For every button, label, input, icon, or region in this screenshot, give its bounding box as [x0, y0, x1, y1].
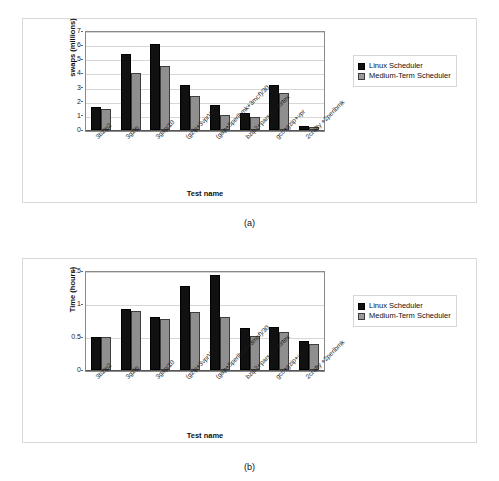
chart-frame-b: Time (hours) 00.511.5 3bzip23gzip3gap/10…: [22, 258, 477, 443]
bar-group: [121, 272, 141, 370]
y-tick-label: 4: [77, 69, 81, 77]
legend-label-linux: Linux Scheduler: [369, 62, 423, 70]
legend-item-linux-a: Linux Scheduler: [358, 62, 451, 70]
y-tick-mark: [81, 304, 83, 305]
figure-caption-a: (a): [0, 218, 499, 228]
bar: [121, 54, 131, 130]
legend-swatch-medium-icon: [358, 313, 365, 320]
y-tick-mark: [81, 87, 83, 88]
legend-label-medium: Medium-Term Scheduler: [369, 312, 451, 320]
legend-item-medium-b: Medium-Term Scheduler: [358, 312, 451, 320]
bar: [180, 286, 190, 370]
y-tick-label: 1.5: [71, 267, 81, 275]
y-tick-mark: [81, 31, 83, 32]
bar: [131, 311, 141, 370]
figure-page: swaps (millions) 01234567 3bzip23gzip3ga…: [0, 0, 499, 481]
y-tick-mark: [81, 130, 83, 131]
bar-group: [150, 272, 170, 370]
chart-frame-a: swaps (millions) 01234567 3bzip23gzip3ga…: [22, 18, 477, 203]
bar-group: [180, 32, 200, 130]
legend-swatch-medium-icon: [358, 73, 365, 80]
plot-area-a: swaps (millions) 01234567 3bzip23gzip3ga…: [85, 31, 325, 132]
y-tick-label: 2: [77, 98, 81, 106]
legend-a: Linux Scheduler Medium-Term Scheduler: [353, 55, 457, 87]
y-tick-mark: [81, 45, 83, 46]
y-tick-label: 1: [77, 300, 81, 308]
y-tick-label: 0: [77, 126, 81, 134]
bar-group: [121, 32, 141, 130]
legend-item-medium-a: Medium-Term Scheduler: [358, 72, 451, 80]
figure-caption-b: (b): [0, 462, 499, 472]
x-axis-title-a: Test name: [85, 189, 325, 198]
legend-item-linux-b: Linux Scheduler: [358, 302, 451, 310]
legend-swatch-linux-icon: [358, 63, 365, 70]
y-tick-mark: [81, 115, 83, 116]
y-tick-label: 3: [77, 84, 81, 92]
y-tick-mark: [81, 370, 83, 371]
bar-group: [180, 272, 200, 370]
y-tick-label: 6: [77, 41, 81, 49]
figure-a: swaps (millions) 01234567 3bzip23gzip3ga…: [0, 0, 499, 240]
legend-label-linux: Linux Scheduler: [369, 302, 423, 310]
bar-group: [150, 32, 170, 130]
y-tick-mark: [81, 337, 83, 338]
legend-swatch-linux-icon: [358, 303, 365, 310]
bar: [150, 44, 160, 130]
y-tick-label: 1: [77, 112, 81, 120]
y-tick-mark: [81, 73, 83, 74]
bar: [180, 85, 190, 130]
bar: [150, 317, 160, 370]
x-axis-title-b: Test name: [85, 431, 325, 440]
plot-area-b: Time (hours) 00.511.5 3bzip23gzip3gap/10…: [85, 271, 325, 372]
bar: [91, 107, 101, 130]
y-tick-label: 5: [77, 55, 81, 63]
legend-b: Linux Scheduler Medium-Term Scheduler: [353, 295, 457, 327]
legend-label-medium: Medium-Term Scheduler: [369, 72, 451, 80]
y-axis-ticks-b: 00.511.5: [59, 265, 83, 378]
y-tick-mark: [81, 271, 83, 272]
y-axis-ticks-a: 01234567: [59, 25, 83, 138]
bar: [131, 73, 141, 130]
y-tick-mark: [81, 59, 83, 60]
bar: [91, 337, 101, 370]
figure-b: Time (hours) 00.511.5 3bzip23gzip3gap/10…: [0, 240, 499, 481]
bar-group: [91, 32, 111, 130]
y-tick-label: 0: [77, 366, 81, 374]
bar: [121, 309, 131, 370]
y-tick-mark: [81, 101, 83, 102]
bar-group: [91, 272, 111, 370]
y-tick-label: 0.5: [71, 333, 81, 341]
y-tick-label: 7: [77, 27, 81, 35]
